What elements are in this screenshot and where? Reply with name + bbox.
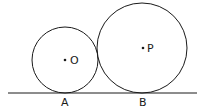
tangent-circles-diagram: O P A B	[0, 0, 202, 111]
label-b: B	[139, 96, 147, 109]
label-a: A	[61, 96, 69, 109]
center-dot-o	[64, 59, 67, 62]
center-dot-p	[142, 47, 145, 50]
label-p: P	[147, 42, 154, 55]
label-o: O	[70, 54, 79, 67]
